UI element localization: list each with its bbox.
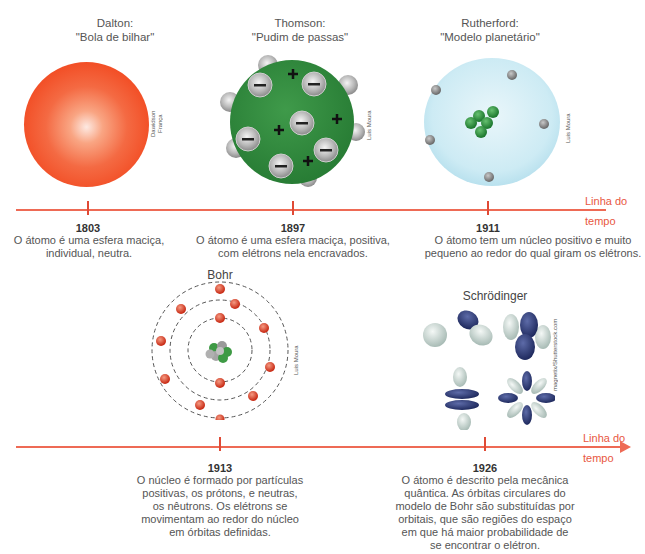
- timeline-2-label-line2: tempo: [583, 452, 614, 465]
- schrodinger-orbitals: [415, 305, 555, 430]
- schrodinger-credit: magnetix/Shutterstock.com: [552, 300, 559, 410]
- dalton-credit: DawidsonFrança: [150, 104, 164, 144]
- timeline-2-tick-1913: [219, 437, 221, 451]
- timeline-1-label-line1: Linha do: [585, 195, 627, 208]
- dalton-sphere: [24, 62, 149, 187]
- rutherford-credit: Luis Moura: [565, 108, 572, 148]
- f-orbital: [498, 371, 555, 425]
- schrodinger-title: Schrödinger: [445, 289, 545, 303]
- timeline-2-line: [16, 446, 622, 448]
- thomson-title: Thomson: "Pudim de passas": [225, 16, 375, 44]
- timeline-2-tick-1926: [484, 437, 486, 451]
- thomson-description: O átomo é uma esfera maciça, positiva,co…: [183, 234, 403, 260]
- dalton-nickname: "Bola de bilhar": [40, 30, 190, 44]
- bohr-credit: Luis Moura: [293, 340, 300, 380]
- timeline-1-label-line2: tempo: [585, 215, 616, 228]
- rutherford-title: Rutherford: "Modelo planetário": [415, 16, 565, 44]
- dz2-orbital: [445, 367, 479, 430]
- rutherford-planetary-model: [418, 52, 568, 192]
- bohr-model: [150, 280, 300, 420]
- thomson-name: Thomson:: [225, 16, 375, 30]
- d-orbital: [503, 312, 551, 360]
- thomson-credit: Luis Moura: [366, 105, 373, 145]
- bohr-description: O núcleo é formado por partículaspositiv…: [120, 474, 320, 539]
- thomson-nickname: "Pudim de passas": [225, 30, 375, 44]
- timeline-1-line: [16, 209, 606, 211]
- schrodinger-description: O átomo é descrito pela mecânicaquântica…: [385, 474, 585, 552]
- timeline-1-tick-1911: [487, 201, 489, 215]
- rutherford-description: O átomo tem um núcleo positivo e muito p…: [400, 234, 645, 260]
- p-orbital: [454, 307, 496, 350]
- rutherford-name: Rutherford:: [415, 16, 565, 30]
- rutherford-nickname: "Modelo planetário": [415, 30, 565, 44]
- s-orbital: [423, 323, 447, 347]
- dalton-description: O átomo é uma esfera maciça,individual, …: [0, 234, 178, 260]
- timeline-1-tick-1803: [87, 201, 89, 215]
- thomson-plum-pudding-model: [212, 52, 372, 192]
- timeline-1-tick-1897: [292, 201, 294, 215]
- dalton-name: Dalton:: [40, 16, 190, 30]
- dalton-title: Dalton: "Bola de bilhar": [40, 16, 190, 44]
- timeline-2-label-line1: Linha do: [583, 432, 625, 445]
